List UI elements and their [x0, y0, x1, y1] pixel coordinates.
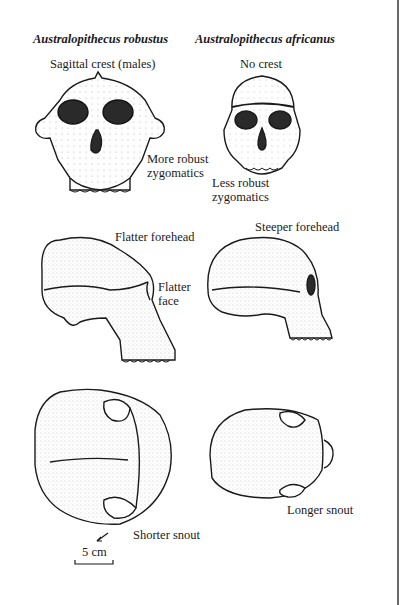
robustus-front-skull — [36, 72, 165, 192]
scale-bar — [75, 533, 113, 564]
africanus-top-skull — [210, 409, 333, 498]
robustus-top-skull — [35, 389, 171, 524]
robustus-lateral-skull — [42, 238, 175, 362]
africanus-lateral-skull — [208, 238, 332, 340]
skull-illustrations — [0, 0, 405, 605]
africanus-front-skull — [224, 76, 300, 174]
